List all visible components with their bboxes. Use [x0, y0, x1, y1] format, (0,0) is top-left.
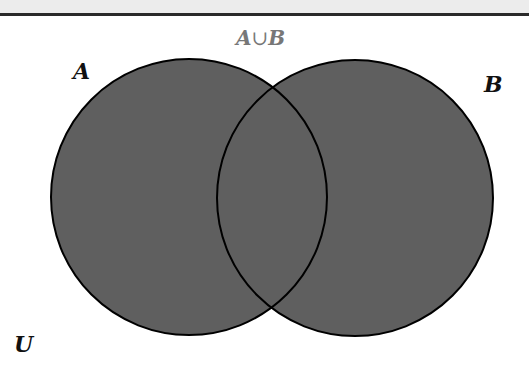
set-a-label: A [73, 60, 90, 82]
set-b-fill [217, 60, 493, 336]
set-b-label: B [484, 73, 503, 95]
title-right: B [268, 26, 285, 50]
universe-label: U [14, 333, 33, 355]
diagram-title: A∪B [236, 28, 285, 48]
title-left: A [236, 26, 252, 50]
union-symbol: ∪ [252, 26, 269, 50]
